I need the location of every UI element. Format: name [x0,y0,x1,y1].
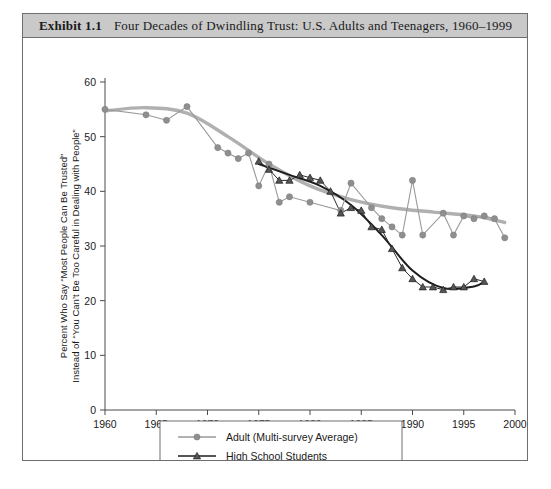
data-point-adult [307,199,313,205]
data-point-adult [245,150,251,156]
data-point-adult [491,216,497,222]
data-point-high-school [470,275,477,281]
trend-line-adult [105,108,505,223]
chart-plot-area: 0102030405060 19601965197019751980198519… [23,38,527,460]
data-point-adult [379,216,385,222]
data-point-adult [348,180,354,186]
x-tick-label: 1960 [93,418,117,430]
data-point-adult [215,145,221,151]
exhibit-title: Four Decades of Dwindling Trust: U.S. Ad… [114,18,512,34]
y-axis-title: Percent Who Say “Most People Can Be Trus… [58,129,81,383]
legend-label-high-school: High School Students [226,450,327,460]
y-tick-label: 0 [90,404,96,416]
exhibit-frame: Exhibit 1.1 Four Decades of Dwindling Tr… [22,13,528,461]
y-axis-title-line-1: Percent Who Say “Most People Can Be Trus… [58,154,69,358]
x-tick-label: 1990 [401,418,425,430]
data-point-adult [471,216,477,222]
chart-series [102,104,508,293]
data-point-adult [389,224,395,230]
data-line-adult [105,107,505,238]
data-point-adult [256,183,262,189]
y-tick-label: 60 [84,76,96,88]
exhibit-header: Exhibit 1.1 Four Decades of Dwindling Tr… [23,14,527,38]
legend-marker-adult [194,434,200,440]
data-point-adult [481,213,487,219]
data-point-high-school [399,264,406,270]
legend-label-adult: Adult (Multi-survey Average) [226,431,358,443]
y-tick-label: 50 [84,131,96,143]
y-axis-title-line-2: Instead of “You Can’t Be Too Careful in … [70,129,81,383]
data-point-adult [399,232,405,238]
x-tick-label: 2000 [503,418,527,430]
data-point-adult [143,112,149,118]
data-point-adult [286,194,292,200]
y-tick-label: 20 [84,295,96,307]
data-point-adult [502,235,508,241]
data-point-adult [409,177,415,183]
data-point-adult [420,232,426,238]
data-point-adult [184,104,190,110]
exhibit-number: Exhibit 1.1 [39,18,102,34]
trust-line-chart: 0102030405060 19601965197019751980198519… [23,38,527,460]
chart-axes [105,78,515,410]
data-point-adult [163,117,169,123]
data-point-adult [461,213,467,219]
data-point-adult [276,199,282,205]
data-point-adult [102,106,108,112]
data-point-adult [235,155,241,161]
data-point-adult [450,232,456,238]
x-tick-label: 1995 [452,418,476,430]
data-point-high-school [296,171,303,177]
y-tick-label: 10 [84,349,96,361]
data-point-adult [440,210,446,216]
y-axis-ticks: 0102030405060 [84,76,105,416]
data-point-high-school [388,245,395,251]
y-tick-label: 40 [84,185,96,197]
data-point-adult [225,150,231,156]
chart-legend: Adult (Multi-survey Average)High School … [160,421,402,460]
y-tick-label: 30 [84,240,96,252]
data-point-adult [368,205,374,211]
